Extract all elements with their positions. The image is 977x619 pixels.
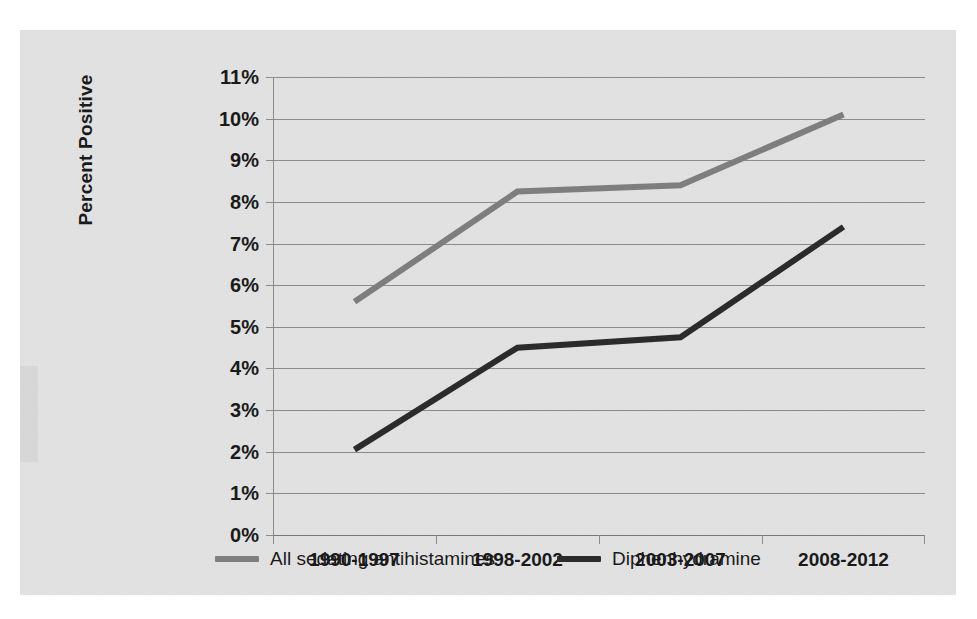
x-axis-separator xyxy=(273,535,274,544)
legend-line-swatch-icon xyxy=(557,556,601,562)
y-axis-label: 8% xyxy=(230,190,259,213)
series-line xyxy=(355,227,844,450)
legend-label: All sedating antihistamines xyxy=(270,548,495,570)
y-axis-tick xyxy=(266,244,273,245)
legend-label: Diphenhydramine xyxy=(612,548,761,570)
y-axis-label: 3% xyxy=(230,399,259,422)
chart-page: Percent Positive 0%1%2%3%4%5%6%7%8%9%10%… xyxy=(0,0,977,619)
y-axis-label: 10% xyxy=(219,107,259,130)
y-axis-tick xyxy=(266,493,273,494)
y-axis-label: 4% xyxy=(230,357,259,380)
x-axis-separator xyxy=(762,535,763,544)
y-axis-tick xyxy=(266,452,273,453)
chart-legend: All sedating antihistaminesDiphenhydrami… xyxy=(20,548,956,570)
legend-line-swatch-icon xyxy=(215,556,259,562)
y-axis-label: 1% xyxy=(230,482,259,505)
y-axis-label: 11% xyxy=(220,66,259,89)
y-axis-tick xyxy=(266,410,273,411)
y-axis-label: 7% xyxy=(230,232,259,255)
plot-area: 0%1%2%3%4%5%6%7%8%9%10%11% 1990-19971998… xyxy=(273,77,925,535)
x-axis-separator xyxy=(436,535,437,544)
y-axis-label: 9% xyxy=(230,149,259,172)
y-axis-tick xyxy=(266,285,273,286)
legend-item[interactable]: All sedating antihistamines xyxy=(215,548,495,570)
y-axis-tick xyxy=(266,160,273,161)
y-axis-label: 5% xyxy=(230,315,259,338)
y-axis-title: Percent Positive xyxy=(75,40,105,260)
y-axis-tick xyxy=(266,327,273,328)
x-axis-separator xyxy=(924,535,925,544)
y-axis-label: 0% xyxy=(230,524,259,547)
y-axis-label: 2% xyxy=(230,440,259,463)
series-lines xyxy=(273,77,925,535)
chart-canvas: Percent Positive 0%1%2%3%4%5%6%7%8%9%10%… xyxy=(20,30,956,595)
y-axis-tick xyxy=(266,368,273,369)
scan-edge-artifact xyxy=(20,366,38,462)
y-axis-tick xyxy=(266,77,273,78)
y-axis-tick xyxy=(266,535,273,536)
y-axis-tick xyxy=(266,119,273,120)
x-axis-separator xyxy=(599,535,600,544)
y-axis-tick xyxy=(266,202,273,203)
legend-item[interactable]: Diphenhydramine xyxy=(557,548,761,570)
y-axis-label: 6% xyxy=(230,274,259,297)
